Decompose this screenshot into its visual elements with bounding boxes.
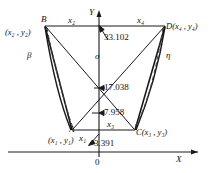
vertex-coord-B: (x₂ , y₂) [5,28,31,37]
y-axis-label: Y [89,8,94,17]
dimension-value-3391: 3.391 [94,139,114,148]
angle-label-eta: η [166,51,170,60]
angle-label-sigma: σ [95,52,99,61]
x-axis [8,149,198,154]
angle-label-beta: β [27,51,31,60]
vertex-coord-C: C(x₃ , y₃) [136,128,167,137]
edge-label-x1: x₁ [79,134,86,143]
vertex-label-B: B [41,15,47,24]
vertex-label-A: A [69,125,75,134]
x-axis-label: X [176,155,182,164]
dimension-value-7958: 7.958 [104,108,124,117]
origin-label: 0 [95,158,100,167]
dimension-value-17038: 17.038 [104,83,129,92]
vertex-coord-A: (x₁ , y₁) [48,136,74,145]
edge-label-x2: x₂ [68,16,75,25]
vertex-coord-D: D(x₄ , y₄) [166,22,198,31]
edge-label-x4: x₄ [137,16,144,25]
geometry-figure: Y X 0 B (x₂ , y₂) D(x₄ , y₄) A (x₁ , y₁)… [0,0,213,173]
edge-label-x3: x₃ [107,120,114,129]
dimension-value-33102: 33.102 [104,33,129,42]
